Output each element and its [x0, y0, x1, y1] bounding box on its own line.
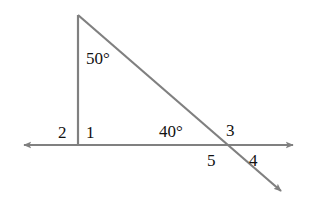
- label-angle-2: 2: [58, 124, 67, 141]
- geometry-diagram: 50° 40° 2 1 3 5 4: [0, 0, 311, 211]
- label-base-angle: 40°: [159, 123, 183, 140]
- geometry-canvas: [0, 0, 311, 211]
- label-angle-4: 4: [249, 152, 258, 169]
- label-angle-5: 5: [207, 152, 216, 169]
- label-apex-angle: 50°: [86, 50, 110, 67]
- label-angle-1: 1: [86, 124, 95, 141]
- label-angle-3: 3: [226, 122, 235, 139]
